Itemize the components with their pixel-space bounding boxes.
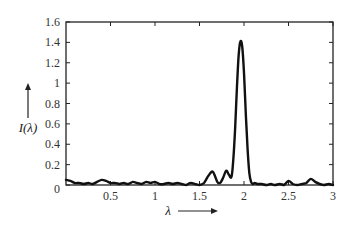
x-axis-label: λ (164, 203, 171, 218)
x-tick-label: 0.5 (103, 189, 118, 203)
y-tick-label: 0.6 (45, 117, 60, 131)
x-tick-label: 2 (241, 189, 247, 203)
x-tick-label: 2.5 (281, 189, 296, 203)
x-tick-label: 1.5 (192, 189, 207, 203)
x-tick-labels: 0.511.522.53 (103, 189, 336, 203)
y-tick-label: 1 (54, 76, 60, 90)
y-axis-arrowhead-icon (25, 83, 31, 90)
y-tick-label: 1.2 (45, 56, 60, 70)
intensity-curve (66, 41, 333, 185)
y-tick-labels: 00.20.40.60.811.21.41.6 (45, 15, 60, 196)
y-tick-label: 1.4 (45, 35, 60, 49)
plot-frame (66, 22, 333, 185)
y-tick-label: 1.6 (45, 15, 60, 29)
x-tick-label: 3 (330, 189, 336, 203)
x-tick-label: 1 (152, 189, 158, 203)
y-tick-label: 0.2 (45, 158, 60, 172)
y-tick-label: 0.4 (45, 137, 60, 151)
y-axis-label: I(λ) (18, 120, 38, 135)
axis-ticks (66, 22, 333, 185)
y-tick-label: 0 (54, 182, 60, 196)
intensity-spectrum-chart: 0.511.522.53 00.20.40.60.811.21.41.6 I(λ… (0, 0, 351, 225)
y-tick-label: 0.8 (45, 97, 60, 111)
x-axis-arrowhead-icon (211, 208, 218, 214)
